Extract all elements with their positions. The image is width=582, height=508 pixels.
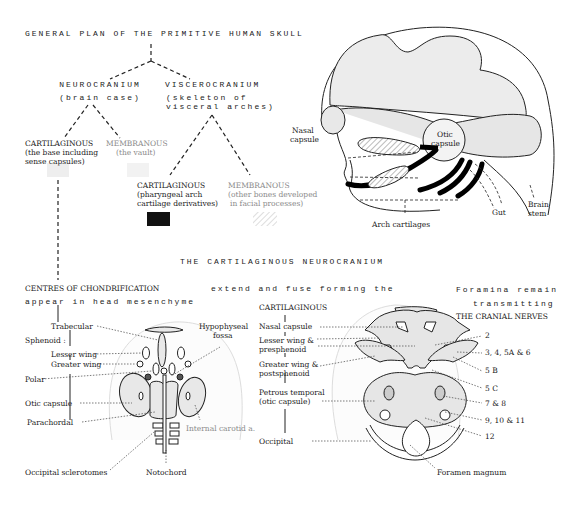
nerves-heading-2: transmitting bbox=[473, 300, 555, 308]
label-petrous-temporal-2: (otic capsule) bbox=[259, 398, 310, 406]
label-gut: Gut bbox=[492, 209, 506, 217]
visc-membranous-sub1: (other bones developed bbox=[228, 191, 317, 199]
label-notochord: Notochord bbox=[146, 469, 187, 477]
label-lesser-wing: Lesser wing bbox=[51, 351, 97, 359]
label-otic-capsule: Otic capsule bbox=[25, 400, 72, 408]
label-nasal-capsule-1: Nasal bbox=[292, 127, 314, 135]
neuro-cartilaginous-label: CARTILAGINOUS bbox=[25, 140, 93, 148]
nerves-heading-1: Foramina remain bbox=[456, 286, 558, 294]
nerve-label: 2 bbox=[485, 332, 490, 340]
label-greater-wing: Greater wing bbox=[51, 361, 101, 369]
label-otic-capsule-2: capsule bbox=[431, 140, 460, 148]
viscerocranium-sub1: (skeleton of bbox=[166, 94, 248, 102]
lateral-skull-view bbox=[321, 27, 554, 215]
label-arch-cartilages: Arch cartilages bbox=[372, 221, 430, 229]
label-internal-carotid: Internal carotid a. bbox=[186, 425, 255, 433]
visc-cartilaginous-sub1: (pharyngeal arch bbox=[137, 191, 202, 199]
nerve-label: 5 C bbox=[485, 385, 498, 393]
left-heading-1: CENTRES OF CHONDRIFICATION bbox=[25, 285, 159, 293]
nerve-label: 3, 4, 5A & 6 bbox=[485, 349, 530, 357]
label-brain-stem-2: stem bbox=[528, 210, 546, 218]
nerves-heading-3: THE CRANIAL NERVES bbox=[456, 313, 548, 321]
neuro-membranous-sub: (the vault) bbox=[116, 149, 155, 157]
label-foramen-magnum: Foramen magnum bbox=[437, 469, 506, 477]
label-nasal-capsule: Nasal capsule bbox=[259, 323, 312, 331]
middle-text: extend and fuse forming the bbox=[211, 285, 395, 293]
page-title: GENERAL PLAN OF THE PRIMITIVE HUMAN SKUL… bbox=[25, 30, 304, 38]
label-petrous-temporal-1: Petrous temporal bbox=[259, 389, 325, 397]
nerve-label: 9, 10 & 11 bbox=[485, 417, 525, 425]
label-trabecular: Trabecular bbox=[51, 323, 93, 331]
visc-cartilaginous-sub2: cartilage derivatives) bbox=[137, 200, 218, 208]
visc-cartilaginous-label: CARTILAGINOUS bbox=[137, 182, 205, 190]
label-greater-wing-postsphenoid-2: postsphenoid bbox=[259, 370, 310, 378]
label-lesser-wing-presphenoid-2: presphenoid bbox=[259, 346, 306, 354]
visc-membranous-sub2: in facial processes) bbox=[230, 200, 303, 208]
label-hypophyseal-1: Hypophyseal bbox=[199, 323, 248, 331]
visc-membranous-label: MEMBRANOUS bbox=[228, 182, 290, 190]
label-parachordal: Parachordal bbox=[27, 419, 73, 427]
neurocranium-label: NEUROCRANIUM bbox=[50, 81, 150, 89]
neuro-cartilaginous-sub1: (the base including bbox=[25, 149, 98, 157]
viscerocranium-sub2: visceral arches) bbox=[166, 103, 275, 111]
label-polar: Polar bbox=[25, 376, 45, 384]
label-lesser-wing-presphenoid-1: Lesser wing & bbox=[259, 337, 314, 345]
nerve-label: 12 bbox=[485, 433, 495, 441]
nerve-label: 7 & 8 bbox=[485, 400, 506, 408]
legend-swatch-hatched bbox=[253, 212, 277, 226]
viscerocranium-label: VISCEROCRANIUM bbox=[165, 81, 260, 89]
neuro-cartilaginous-sub2: sense capsules) bbox=[25, 158, 85, 166]
right-heading: CARTILAGINOUS bbox=[259, 304, 327, 312]
label-brain-stem-1: Brain bbox=[528, 201, 549, 209]
label-sphenoid: Sphenoid : bbox=[25, 337, 66, 345]
neuro-membranous-label: MEMBRANOUS bbox=[106, 140, 168, 148]
section-title: THE CARTILAGINOUS NEUROCRANIUM bbox=[180, 258, 384, 266]
neurocranium-sub: (brain case) bbox=[50, 94, 150, 102]
nerve-label: 5 B bbox=[485, 367, 498, 375]
left-heading-2: appear in head mesenchyme bbox=[25, 298, 195, 306]
label-occipital-sclerotomes: Occipital sclerotomes bbox=[25, 469, 107, 477]
label-hypophyseal-2: fossa bbox=[213, 332, 232, 340]
legend-swatch-solid bbox=[147, 212, 170, 226]
label-nasal-capsule-2: capsule bbox=[290, 136, 319, 144]
label-occipital: Occipital bbox=[259, 438, 293, 446]
label-otic-capsule-1: Otic bbox=[437, 131, 453, 139]
label-greater-wing-postsphenoid-1: Greater wing & bbox=[259, 361, 318, 369]
